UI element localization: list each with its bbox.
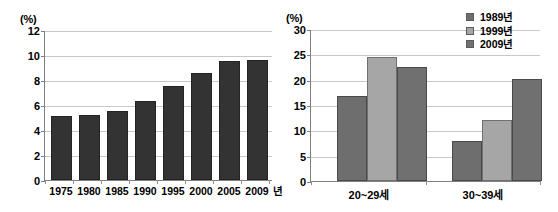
bar-20-29-2009: [397, 67, 427, 182]
xtick-label-1990: 1990: [133, 186, 156, 197]
left-ytick-mark-8: [41, 81, 45, 82]
right-ytick-mark-10: [307, 131, 311, 132]
right-ytick-mark-15: [307, 106, 311, 107]
legend-swatch-icon-1999: [466, 27, 474, 35]
xtick-label-2005: 2005: [217, 186, 240, 197]
left-xtick-mark-5: [185, 180, 186, 184]
legend-item-1999: 1999년: [466, 26, 513, 37]
legend-swatch-icon-2009: [466, 40, 474, 48]
left-xtick-mark-4: [157, 180, 158, 184]
bar-1990: [135, 101, 156, 180]
right-chart-legend: 1989년 1999년 2009년: [466, 12, 513, 50]
right-ytick-label-20: 20: [294, 75, 306, 86]
xtick-label-30-39: 30~39세: [463, 190, 504, 201]
legend-label-2009: 2009년: [480, 39, 513, 50]
left-xtick-mark-2: [101, 180, 102, 184]
left-chart-unit-label: (%): [20, 13, 37, 25]
two-panel-bar-chart-figure: (%) 12 10 8 6 4 2 0: [0, 0, 558, 212]
right-ytick-label-25: 25: [294, 50, 306, 61]
left-xtick-mark-1: [73, 180, 74, 184]
bar-1985: [107, 111, 128, 180]
left-xtick-mark-3: [129, 180, 130, 184]
right-ytick-mark-30: [307, 30, 311, 31]
legend-label-1989: 1989년: [480, 12, 513, 23]
left-xtick-mark-0: [45, 180, 46, 184]
left-ytick-mark-2: [41, 156, 45, 157]
right-ytick-label-0: 0: [300, 177, 306, 188]
right-chart-unit-label: (%): [286, 12, 303, 24]
right-ytick-label-5: 5: [300, 151, 306, 162]
right-xtick-mark-1: [426, 181, 427, 185]
legend-swatch-icon-1989: [466, 13, 474, 21]
xtick-label-1985: 1985: [105, 186, 128, 197]
left-ytick-mark-6: [41, 106, 45, 107]
left-ytick-mark-12: [41, 31, 45, 32]
left-ytick-mark-4: [41, 131, 45, 132]
bar-30-39-2009: [512, 79, 542, 181]
bar-2005: [219, 61, 240, 180]
left-ytick-label-6: 6: [34, 101, 40, 112]
xtick-label-1975: 1975: [49, 186, 72, 197]
left-chart-plot-area: 12 10 8 6 4 2 0: [44, 31, 272, 181]
right-ytick-label-30: 30: [294, 25, 306, 36]
left-ytick-label-12: 12: [28, 26, 40, 37]
left-ytick-label-2: 2: [34, 151, 40, 162]
xtick-label-1995: 1995: [161, 186, 184, 197]
right-chart-panel: (%) 30 25 20 15 10 5 0: [278, 0, 558, 212]
bar-2009: [247, 60, 268, 180]
right-chart-plot-area: 30 25 20 15 10 5 0: [310, 30, 540, 182]
left-chart-panel: (%) 12 10 8 6 4 2 0: [0, 0, 278, 212]
left-xtick-mark-6: [213, 180, 214, 184]
right-ytick-mark-25: [307, 55, 311, 56]
right-gridline-25: [311, 55, 540, 56]
bar-1980: [79, 115, 100, 180]
legend-item-2009: 2009년: [466, 39, 513, 50]
right-xtick-mark-0: [311, 181, 312, 185]
left-gridline-10: [45, 56, 272, 57]
right-xtick-mark-2: [540, 181, 541, 185]
xtick-label-2000: 2000: [189, 186, 212, 197]
right-ytick-label-15: 15: [294, 101, 306, 112]
left-ytick-label-0: 0: [34, 176, 40, 187]
legend-label-1999: 1999년: [480, 26, 513, 37]
left-ytick-label-4: 4: [34, 126, 40, 137]
bar-20-29-1999: [367, 57, 397, 181]
xtick-label-20-29: 20~29세: [349, 190, 390, 201]
right-ytick-label-10: 10: [294, 126, 306, 137]
bar-20-29-1989: [337, 96, 367, 181]
right-ytick-mark-20: [307, 81, 311, 82]
bar-2000: [191, 73, 212, 181]
left-xtick-mark-8: [269, 180, 270, 184]
left-ytick-mark-10: [41, 56, 45, 57]
right-ytick-mark-5: [307, 157, 311, 158]
bar-1995: [163, 86, 184, 180]
legend-item-1989: 1989년: [466, 12, 513, 23]
xtick-label-2009: 2009: [245, 186, 268, 197]
left-gridline-12: [45, 31, 272, 32]
xtick-label-1980: 1980: [77, 186, 100, 197]
bar-30-39-1999: [482, 120, 512, 181]
left-ytick-label-8: 8: [34, 76, 40, 87]
bar-30-39-1989: [452, 141, 482, 181]
bar-1975: [51, 116, 72, 180]
left-ytick-label-10: 10: [28, 51, 40, 62]
left-xtick-mark-7: [241, 180, 242, 184]
